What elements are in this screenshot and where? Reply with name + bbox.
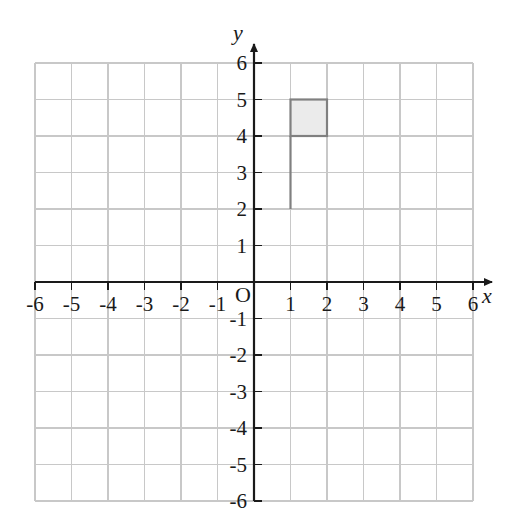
x-tick-label: 5: [431, 292, 442, 316]
x-axis-label: x: [481, 283, 492, 308]
x-tick-label: 4: [395, 292, 406, 316]
origin-label: O: [235, 282, 251, 307]
y-tick-label: 5: [237, 88, 248, 112]
x-tick-label: -1: [209, 292, 227, 316]
y-tick-label: -1: [230, 307, 248, 331]
x-tick-label: -2: [172, 292, 190, 316]
y-tick-label: -5: [230, 453, 248, 477]
x-tick-label: -5: [63, 292, 81, 316]
y-tick-label: 6: [237, 51, 248, 75]
y-tick-label: 4: [237, 124, 248, 148]
y-axis-label: y: [231, 20, 243, 45]
x-tick-label: 1: [285, 292, 296, 316]
coordinate-plane-svg: -6-5-4-3-2-1123456654321-1-2-3-4-5-6 x y…: [0, 0, 507, 532]
x-tick-label: 6: [468, 292, 479, 316]
y-tick-label: -4: [230, 416, 248, 440]
coordinate-plane-figure: -6-5-4-3-2-1123456654321-1-2-3-4-5-6 x y…: [0, 0, 507, 532]
y-tick-label: 2: [237, 197, 248, 221]
x-tick-label: -6: [26, 292, 44, 316]
axes: [35, 44, 492, 501]
plotted-shapes: [291, 100, 328, 210]
y-tick-label: -3: [230, 380, 248, 404]
shaded-square: [291, 100, 328, 137]
y-tick-label: -6: [230, 489, 248, 513]
x-tick-label: 2: [322, 292, 333, 316]
x-tick-label: 3: [358, 292, 369, 316]
x-tick-label: -4: [99, 292, 117, 316]
x-tick-label: -3: [136, 292, 154, 316]
y-tick-label: -2: [230, 343, 248, 367]
y-tick-label: 3: [237, 161, 248, 185]
y-tick-label: 1: [237, 234, 248, 258]
